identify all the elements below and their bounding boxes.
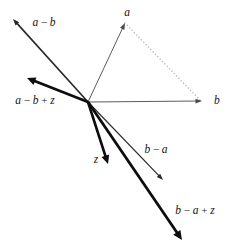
labels-layer: aba − ba − b + zb − ab − a + zz <box>15 6 220 216</box>
vector-z <box>88 102 109 164</box>
arrowhead-a <box>120 23 125 30</box>
label-a: a <box>124 6 130 18</box>
vector-b <box>88 99 202 104</box>
vector-a <box>88 23 125 102</box>
label-z: z <box>93 153 99 165</box>
vectors-layer <box>13 19 202 240</box>
vector-shaft-z <box>88 102 107 160</box>
vector-diagram: aba − ba − b + zb − ab − a + zz <box>0 0 231 250</box>
label-b-minus-a-plus-z: b − a + z <box>175 204 215 216</box>
vector-shaft-b <box>88 101 198 102</box>
label-a-minus-b: a − b <box>32 16 55 28</box>
vector-shaft-a-minus-b <box>15 22 88 102</box>
vector-b-minus-a-plus-z <box>88 102 182 240</box>
connector-a-to-b-dotted <box>124 22 201 101</box>
arrowhead-z <box>102 155 110 164</box>
arrowhead-b <box>195 99 202 104</box>
label-b: b <box>214 94 220 106</box>
vector-shaft-a <box>88 26 123 102</box>
connectors-layer <box>124 22 201 101</box>
vector-a-minus-b <box>13 19 88 102</box>
label-b-minus-a: b − a <box>144 143 167 155</box>
label-a-minus-b-plus-z: a − b + z <box>15 94 55 106</box>
vector-diagram-canvas: aba − ba − b + zb − ab − a + zz <box>0 0 231 250</box>
vector-shaft-b-minus-a-plus-z <box>88 102 179 236</box>
